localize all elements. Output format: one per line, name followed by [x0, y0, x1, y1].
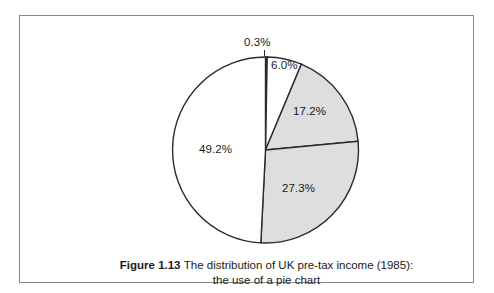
slice-label-3: 27.3%	[282, 182, 315, 194]
figure-root: 0.3% 6.0% 17.2% 27.3% 49.2% Figure 1.13 …	[0, 0, 494, 293]
caption-line-2: the use of a pie chart	[39, 273, 494, 288]
pie-chart: 0.3% 6.0% 17.2% 27.3% 49.2%	[20, 16, 494, 256]
figure-number: Figure 1.13	[120, 259, 181, 271]
figure-caption: Figure 1.13 The distribution of UK pre-t…	[39, 258, 494, 288]
caption-text-1b: The distribution of UK pre-tax income (1…	[184, 259, 413, 271]
figure-frame: 0.3% 6.0% 17.2% 27.3% 49.2% Figure 1.13 …	[19, 15, 474, 283]
slice-label-2: 17.2%	[293, 105, 326, 117]
slice-label-4: 49.2%	[199, 143, 232, 155]
pie-chart-svg	[20, 16, 494, 256]
caption-line-1: Figure 1.13 The distribution of UK pre-t…	[39, 258, 494, 273]
slice-label-0: 0.3%	[244, 36, 271, 48]
slice-label-1: 6.0%	[271, 59, 298, 71]
sliver-leader-line	[264, 50, 265, 56]
